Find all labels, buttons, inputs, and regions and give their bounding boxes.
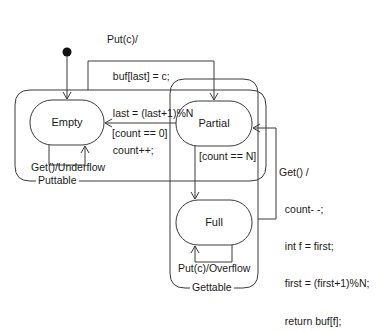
get-transition-label: Get() / count- -; int f = first; first =…: [279, 141, 369, 331]
state-full-label: Full: [176, 216, 252, 228]
to-full-guard-label: [count == N]: [199, 150, 256, 162]
get-label-line: Get() /: [279, 166, 369, 178]
get-label-line: count- -;: [279, 203, 369, 215]
put-label-line: Put(c)/: [107, 33, 193, 45]
full-self-transition-label: Put(c)/Overflow: [178, 262, 250, 274]
get-label-line: int f = first;: [279, 240, 369, 252]
get-label-line: return buf[f];: [279, 315, 369, 327]
puttable-region-label: Puttable: [36, 174, 79, 186]
empty-self-transition-label: Get()/Underflow: [31, 161, 105, 173]
state-empty-label: Empty: [30, 116, 104, 128]
put-label-line: last = (last+1)%N: [107, 107, 193, 119]
full-self-transition: [195, 245, 232, 262]
put-label-line: count++;: [107, 144, 193, 156]
put-label-line: buf[last] = c;: [107, 70, 193, 82]
initial-state-dot: [63, 48, 72, 57]
gettable-region-label: Gettable: [190, 281, 234, 293]
get-label-line: first = (first+1)%N;: [279, 277, 369, 289]
put-transition-label: Put(c)/ buf[last] = c; last = (last+1)%N…: [107, 8, 193, 169]
to-empty-guard-label: [count == 0]: [112, 127, 167, 139]
